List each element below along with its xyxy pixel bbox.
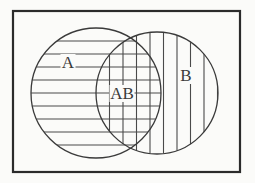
venn-diagram-canvas: A AB B <box>0 0 255 183</box>
intersection-label: AB <box>110 84 134 103</box>
venn-diagram-figure: A AB B <box>0 0 255 183</box>
set-a-label: A <box>62 53 75 72</box>
set-a-label-group: A <box>61 53 76 72</box>
intersection-label-group: AB <box>110 84 135 103</box>
set-b-label-group: B <box>179 66 194 85</box>
set-b-label: B <box>180 66 191 85</box>
